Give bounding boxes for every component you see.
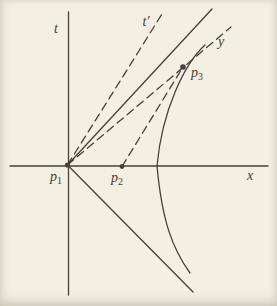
p2-p3-line bbox=[122, 67, 183, 167]
p2-label-base: p bbox=[110, 170, 118, 185]
p3-label-base: p bbox=[190, 65, 198, 80]
x-axis-label: x bbox=[246, 168, 254, 183]
p2-point bbox=[120, 164, 125, 169]
t-prime-line bbox=[68, 14, 163, 165]
p1-label: p1 bbox=[49, 169, 62, 186]
y-line-label: y bbox=[216, 34, 225, 49]
p1-label-base: p bbox=[49, 169, 57, 184]
y-line bbox=[68, 27, 232, 165]
p2-label: p2 bbox=[110, 170, 123, 187]
t-axis-label: t bbox=[54, 21, 59, 36]
upper-null-line bbox=[68, 9, 213, 165]
p3-label-sub: 3 bbox=[198, 71, 203, 82]
p1-point bbox=[65, 162, 70, 167]
p3-label: p3 bbox=[190, 65, 203, 82]
spacetime-diagram-figure: t x t′ y p1 p2 p3 bbox=[0, 0, 277, 306]
p1-label-sub: 1 bbox=[57, 175, 62, 186]
diagram-canvas: t x t′ y p1 p2 p3 bbox=[0, 0, 277, 306]
t-prime-label: t′ bbox=[143, 14, 151, 29]
p3-point bbox=[180, 64, 186, 70]
p2-label-sub: 2 bbox=[118, 176, 123, 187]
lower-null-line bbox=[68, 165, 194, 292]
